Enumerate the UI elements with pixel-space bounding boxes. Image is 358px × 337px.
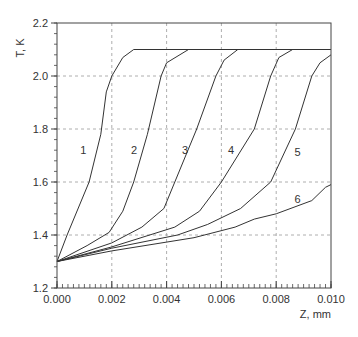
curve-label-2: 2 xyxy=(131,144,137,156)
curve-4 xyxy=(57,50,293,262)
y-tick-label: 2.0 xyxy=(33,70,48,82)
curve-label-5: 5 xyxy=(295,146,301,158)
data-curves xyxy=(57,50,331,262)
x-tick-label: 0.004 xyxy=(153,293,181,305)
x-axis-label: Z, mm xyxy=(300,308,331,320)
curve-label-3: 3 xyxy=(182,144,188,156)
plot-frame xyxy=(57,23,331,288)
y-tick-label: 1.4 xyxy=(33,229,48,241)
y-tick-label: 1.6 xyxy=(33,176,48,188)
x-tick-label: 0.008 xyxy=(262,293,290,305)
curve-2 xyxy=(57,50,189,262)
axis-ticks xyxy=(51,23,331,288)
y-tick-label: 1.8 xyxy=(33,123,48,135)
y-axis-label: T, K xyxy=(14,38,26,58)
curve-labels: 123456 xyxy=(80,144,300,205)
curve-5 xyxy=(57,55,331,262)
x-tick-label: 0.010 xyxy=(317,293,345,305)
y-tick-labels: 1.21.41.61.82.02.2 xyxy=(33,17,48,294)
curve-label-1: 1 xyxy=(80,144,86,156)
curve-label-4: 4 xyxy=(228,144,234,156)
x-tick-label: 0.006 xyxy=(208,293,236,305)
grid-lines xyxy=(57,23,331,288)
temperature-vs-z-chart: 123456 0.0000.0020.0040.0060.0080.010 1.… xyxy=(0,0,358,337)
curve-6 xyxy=(57,185,331,262)
y-tick-label: 1.2 xyxy=(33,282,48,294)
x-tick-labels: 0.0000.0020.0040.0060.0080.010 xyxy=(43,293,345,305)
y-tick-label: 2.2 xyxy=(33,17,48,29)
chart-canvas: 123456 0.0000.0020.0040.0060.0080.010 1.… xyxy=(0,0,358,337)
curve-label-6: 6 xyxy=(295,193,301,205)
x-tick-label: 0.000 xyxy=(43,293,71,305)
x-tick-label: 0.002 xyxy=(98,293,126,305)
